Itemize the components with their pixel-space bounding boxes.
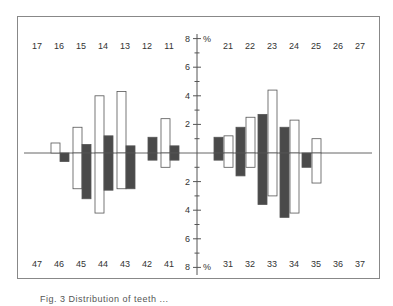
bar-dark — [280, 127, 289, 153]
bar-white — [117, 92, 126, 153]
tooth-label-lower-right: 35 — [311, 259, 321, 269]
bar-chart: 86422468%%171615141312114746454443424121… — [0, 0, 393, 306]
tooth-label-lower-left: 46 — [54, 259, 64, 269]
tooth-label-lower-right: 33 — [267, 259, 277, 269]
bar-white — [224, 136, 233, 153]
bar-dark — [170, 146, 179, 153]
tooth-label-lower-left: 41 — [164, 259, 174, 269]
bar-white — [95, 96, 104, 153]
y-tick-label: 4 — [185, 91, 190, 101]
bar-white — [312, 139, 321, 153]
bar-dark — [258, 114, 267, 153]
unit-label: % — [203, 34, 211, 44]
bar-dark — [126, 146, 135, 153]
tooth-label-lower-left: 47 — [32, 259, 42, 269]
bar-dark — [236, 127, 245, 153]
tooth-label-lower-left: 44 — [98, 259, 108, 269]
tooth-label-upper-right: 27 — [355, 41, 365, 51]
tooth-label-lower-left: 43 — [120, 259, 130, 269]
bar-dark — [82, 144, 91, 153]
tooth-label-lower-left: 45 — [76, 259, 86, 269]
bar-dark — [258, 153, 267, 204]
bar-dark — [104, 153, 113, 190]
bar-dark — [302, 153, 311, 167]
bar-dark — [82, 153, 91, 199]
tooth-label-upper-left: 17 — [32, 41, 42, 51]
bar-white — [312, 153, 321, 183]
bar-dark — [148, 137, 157, 153]
bar-white — [161, 153, 170, 167]
figure-caption: Fig. 3 Distribution of teeth ... — [40, 294, 169, 304]
y-tick-label: 6 — [185, 62, 190, 72]
bar-white — [290, 120, 299, 153]
tooth-label-upper-left: 12 — [142, 41, 152, 51]
unit-label: % — [203, 262, 211, 272]
tooth-label-upper-left: 16 — [54, 41, 64, 51]
bar-white — [51, 143, 60, 153]
bar-dark — [214, 137, 223, 153]
tooth-label-lower-right: 36 — [333, 259, 343, 269]
tooth-label-upper-right: 22 — [245, 41, 255, 51]
bar-white — [73, 127, 82, 153]
tooth-label-lower-right: 37 — [355, 259, 365, 269]
tooth-label-upper-left: 14 — [98, 41, 108, 51]
tooth-label-lower-left: 42 — [142, 259, 152, 269]
tooth-label-lower-right: 32 — [245, 259, 255, 269]
tooth-label-upper-right: 23 — [267, 41, 277, 51]
tooth-label-lower-right: 31 — [223, 259, 233, 269]
bar-white — [246, 153, 255, 167]
tooth-label-lower-right: 34 — [289, 259, 299, 269]
bar-dark — [104, 136, 113, 153]
y-tick-label: 2 — [185, 177, 190, 187]
tooth-label-upper-right: 25 — [311, 41, 321, 51]
bar-dark — [170, 153, 179, 160]
bar-white — [161, 119, 170, 153]
bar-dark — [148, 153, 157, 160]
bar-white — [268, 90, 277, 153]
y-tick-label: 2 — [185, 119, 190, 129]
y-tick-label: 8 — [185, 262, 190, 272]
bar-white — [290, 153, 299, 213]
bar-white — [268, 153, 277, 196]
y-tick-label: 4 — [185, 205, 190, 215]
bar-dark — [214, 153, 223, 160]
tooth-label-upper-left: 13 — [120, 41, 130, 51]
y-tick-label: 8 — [185, 34, 190, 44]
bar-white — [117, 153, 126, 189]
bar-dark — [126, 153, 135, 189]
tooth-label-upper-right: 26 — [333, 41, 343, 51]
bar-white — [73, 153, 82, 189]
bar-dark — [280, 153, 289, 217]
tooth-label-upper-left: 15 — [76, 41, 86, 51]
y-tick-label: 6 — [185, 234, 190, 244]
bar-white — [224, 153, 233, 167]
tooth-label-upper-right: 21 — [223, 41, 233, 51]
bar-white — [95, 153, 104, 213]
tooth-label-upper-left: 11 — [164, 41, 173, 51]
bar-white — [246, 117, 255, 153]
tooth-label-upper-right: 24 — [289, 41, 299, 51]
bar-dark — [236, 153, 245, 176]
bar-dark — [60, 153, 69, 162]
